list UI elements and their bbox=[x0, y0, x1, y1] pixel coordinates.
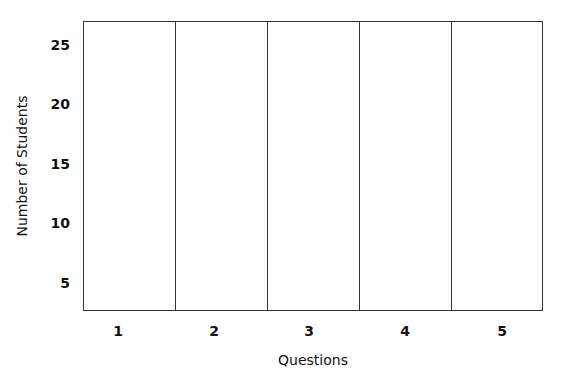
column-divider bbox=[359, 22, 360, 310]
column-divider bbox=[175, 22, 176, 310]
x-tick-label: 2 bbox=[209, 323, 219, 339]
y-tick-label: 25 bbox=[51, 37, 70, 53]
x-tick-label: 3 bbox=[304, 323, 314, 339]
y-tick-label: 15 bbox=[51, 156, 70, 172]
x-axis-label: Questions bbox=[278, 352, 348, 368]
y-tick-label: 20 bbox=[51, 96, 70, 112]
x-tick-label: 5 bbox=[497, 323, 507, 339]
x-tick-label: 4 bbox=[400, 323, 410, 339]
x-tick-label: 1 bbox=[113, 323, 123, 339]
column-divider bbox=[451, 22, 452, 310]
y-tick-label: 10 bbox=[51, 215, 70, 231]
column-divider bbox=[267, 22, 268, 310]
y-axis-label: Number of Students bbox=[14, 95, 30, 236]
plot-area bbox=[83, 21, 543, 311]
y-tick-label: 5 bbox=[60, 275, 70, 291]
